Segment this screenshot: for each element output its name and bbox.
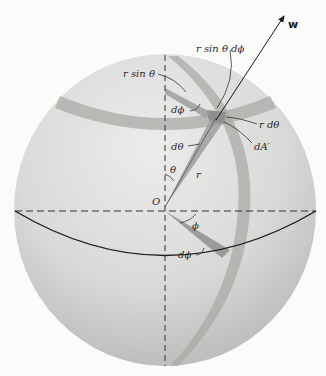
sphere-diagram: w r sin θ dϕ r sin θ dϕ r dθ dA′ dθ θ r … bbox=[0, 0, 326, 376]
label-theta: θ bbox=[170, 164, 176, 175]
label-dphi-bottom: dϕ bbox=[178, 249, 191, 260]
label-r-sin-theta: r sin θ bbox=[123, 68, 155, 79]
label-origin: O bbox=[152, 196, 160, 207]
label-w: w bbox=[288, 18, 298, 31]
diagram-svg: w r sin θ dϕ r sin θ dϕ r dθ dA′ dθ θ r … bbox=[0, 0, 326, 376]
label-dtheta: dθ bbox=[171, 141, 183, 152]
label-dA-prime: dA′ bbox=[254, 141, 271, 152]
label-r-sin-theta-dphi: r sin θ dϕ bbox=[196, 43, 245, 54]
label-dphi-top: dϕ bbox=[171, 104, 184, 115]
label-r-dtheta: r dθ bbox=[259, 119, 279, 130]
label-phi: ϕ bbox=[192, 220, 199, 231]
